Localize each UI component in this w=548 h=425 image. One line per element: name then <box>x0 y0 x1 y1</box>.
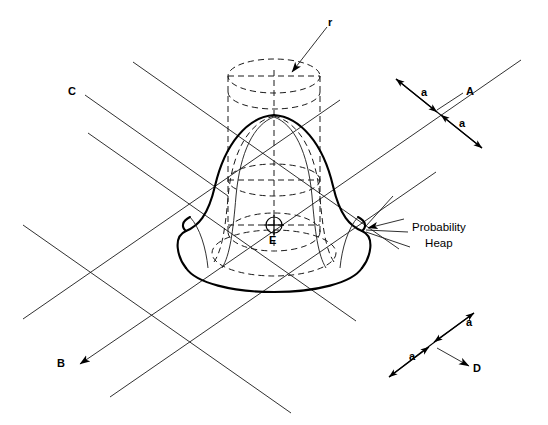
label-axis-b: B <box>57 357 65 371</box>
heap-profile-left <box>178 115 274 268</box>
label-probability-heap-line1: Probability <box>412 220 466 236</box>
dimension-a-bottom <box>389 313 474 377</box>
skirt-seam-left <box>190 217 208 268</box>
axis-d-line <box>437 348 469 366</box>
heap-leader-line-4 <box>366 196 393 226</box>
label-probability-heap: Probability Heap <box>412 220 466 251</box>
skirt-seam-right <box>340 217 358 268</box>
dim-a-top-upper-tick <box>396 79 437 112</box>
axis-a-leader <box>437 93 463 110</box>
inner-dashed-left <box>214 116 274 262</box>
axis-a-line <box>437 93 463 110</box>
label-axis-c: C <box>68 85 76 99</box>
axis-d-arrow <box>437 348 469 366</box>
label-axis-d: D <box>473 362 481 376</box>
heap-leader-line-3 <box>366 232 410 247</box>
diagram-canvas <box>0 0 548 425</box>
grid-family-c <box>23 62 399 413</box>
heap-profile-right <box>274 115 370 268</box>
label-probability-heap-line2: Heap <box>412 236 466 252</box>
probability-heap-diagram: r A B C D E a a a a Probability Heap <box>0 0 548 425</box>
heap-leader-line-1 <box>368 219 404 228</box>
label-axis-a: A <box>466 85 474 99</box>
probability-heap-leader <box>366 196 410 247</box>
center-point-marker <box>264 215 284 235</box>
label-dim-a-top-lower: a <box>459 117 465 131</box>
heap-base-front-arc <box>186 268 362 292</box>
heap-leader-line-2 <box>366 230 408 232</box>
label-dim-a-top-upper: a <box>421 86 427 100</box>
label-dim-a-bottom-lower: a <box>409 350 415 364</box>
label-center-point: E <box>269 234 276 248</box>
label-dim-a-bottom-upper: a <box>466 316 472 330</box>
label-radius: r <box>328 16 332 30</box>
